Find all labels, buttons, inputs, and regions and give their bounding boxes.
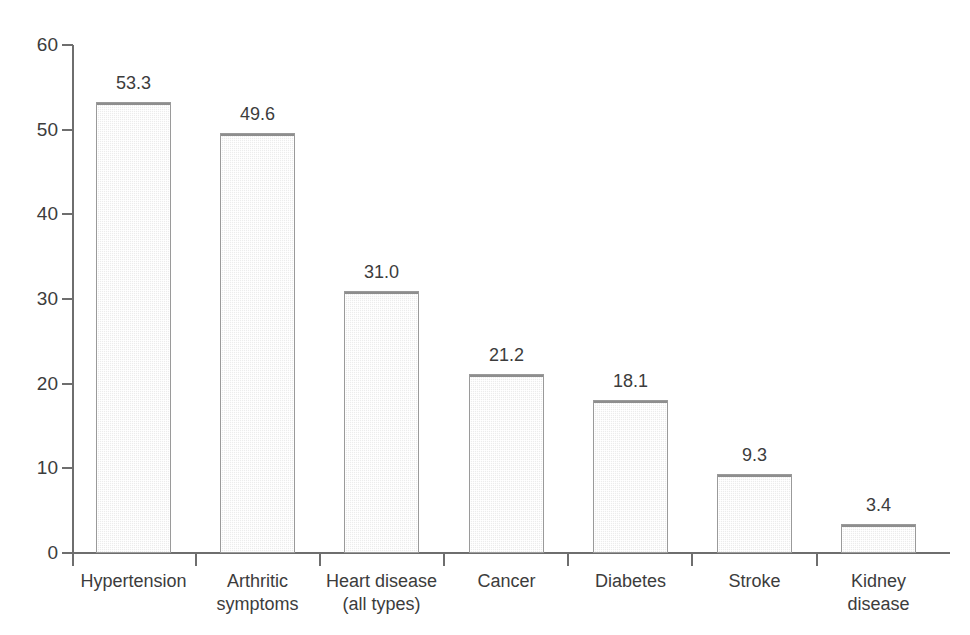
- bar: [593, 400, 668, 553]
- y-axis-tick-label: 60: [0, 35, 58, 54]
- bar-value-label: 21.2: [449, 346, 564, 364]
- x-axis-category-label: Kidney disease: [813, 570, 944, 616]
- x-axis-category-label: Hypertension: [68, 570, 199, 593]
- x-axis-tick-mark: [195, 553, 197, 566]
- x-axis-tick-mark: [443, 553, 445, 566]
- bar: [344, 291, 419, 553]
- bar: [220, 133, 295, 553]
- bar-top-edge: [594, 401, 667, 403]
- x-axis-tick-mark: [816, 553, 818, 566]
- y-axis-tick-label: 10: [0, 458, 58, 477]
- bar-value-label: 3.4: [821, 496, 936, 514]
- bar-top-edge: [470, 375, 543, 377]
- bar-top-edge: [221, 134, 294, 136]
- bar-top-edge: [842, 525, 915, 527]
- bar-value-label: 53.3: [76, 74, 191, 92]
- x-axis-tick-mark: [319, 553, 321, 566]
- y-axis-tick-mark: [62, 298, 73, 300]
- x-axis-category-label: Diabetes: [565, 570, 696, 593]
- y-axis-tick-mark: [62, 44, 73, 46]
- y-axis-tick-label: 30: [0, 289, 58, 308]
- y-axis-tick-mark: [62, 383, 73, 385]
- x-axis-tick-mark: [567, 553, 569, 566]
- bar: [469, 374, 544, 553]
- bar: [717, 474, 792, 553]
- bar-top-edge: [97, 103, 170, 105]
- x-axis-origin-tick: [72, 553, 74, 566]
- y-axis-tick-label: 20: [0, 374, 58, 393]
- plot-area: 0102030405060 53.349.631.021.218.19.33.4…: [0, 0, 970, 635]
- y-axis-tick-mark: [62, 213, 73, 215]
- bar-top-edge: [718, 475, 791, 477]
- bar-value-label: 9.3: [697, 446, 812, 464]
- bar: [96, 102, 171, 553]
- bar-top-edge: [345, 292, 418, 294]
- y-axis-tick-mark: [62, 129, 73, 131]
- x-axis-category-label: Cancer: [441, 570, 572, 593]
- bar-value-label: 31.0: [324, 263, 439, 281]
- y-axis-tick-mark: [62, 467, 73, 469]
- bar-chart: 0102030405060 53.349.631.021.218.19.33.4…: [0, 0, 970, 635]
- y-axis-tick-label: 50: [0, 120, 58, 139]
- bar: [841, 524, 916, 553]
- y-axis-tick-label: 0: [0, 543, 58, 562]
- x-axis-category-label: Stroke: [689, 570, 820, 593]
- bar-value-label: 18.1: [573, 372, 688, 390]
- y-axis-tick-label: 40: [0, 204, 58, 223]
- x-axis-category-label: Heart disease (all types): [316, 570, 447, 616]
- bar-value-label: 49.6: [200, 105, 315, 123]
- x-axis-category-label: Arthritic symptoms: [192, 570, 323, 616]
- x-axis-tick-mark: [691, 553, 693, 566]
